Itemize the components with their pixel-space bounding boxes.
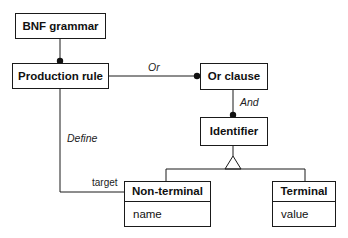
class-attribute: value	[273, 202, 335, 226]
role-label-target: target	[92, 177, 118, 188]
class-name: Production rule	[13, 64, 108, 88]
class-non-terminal: Non-terminal name	[124, 181, 211, 227]
class-name: Or clause	[201, 64, 267, 89]
association-label-and: And	[240, 96, 259, 108]
class-identifier: Identifier	[200, 117, 268, 146]
association-label-or: Or	[148, 61, 160, 73]
class-bnf-grammar: BNF grammar	[15, 13, 106, 39]
class-name: BNF grammar	[16, 14, 105, 38]
class-name: Terminal	[273, 182, 335, 202]
class-terminal: Terminal value	[272, 181, 336, 227]
class-name: Non-terminal	[125, 182, 210, 202]
class-name: Identifier	[201, 118, 267, 145]
class-or-clause: Or clause	[200, 63, 268, 90]
association-label-define: Define	[67, 132, 97, 144]
class-production-rule: Production rule	[12, 63, 109, 89]
class-attribute: name	[125, 202, 210, 226]
